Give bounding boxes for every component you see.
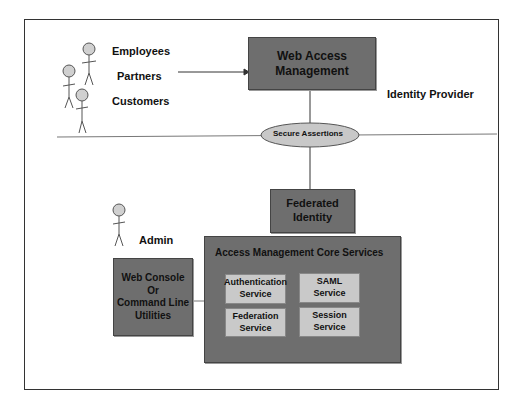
web-access-management-box: Web Access Management [248, 37, 376, 90]
web-console-label: Web Console Or Command Line Utilities [117, 272, 189, 322]
web-console-box: Web Console Or Command Line Utilities [113, 258, 193, 336]
identity-provider-label: Identity Provider [387, 88, 474, 100]
authentication-service-label: Authentication Service [224, 277, 287, 300]
employees-label: Employees [112, 45, 170, 57]
session-service-label: Session Service [312, 310, 347, 333]
employee-actor-icon [82, 43, 96, 85]
federated-identity-box: Federated Identity [270, 189, 355, 233]
partners-label: Partners [117, 70, 162, 82]
customer-actor-icon [76, 89, 88, 133]
core-services-title: Access Management Core Services [215, 247, 383, 260]
web-access-management-label: Web Access Management [275, 49, 348, 79]
federation-service-label: Federation Service [232, 311, 278, 334]
authentication-service-box: Authentication Service [225, 274, 286, 304]
session-service-box: Session Service [299, 307, 360, 337]
customers-label: Customers [112, 95, 169, 107]
admin-label: Admin [139, 234, 173, 246]
secure-assertions-label: Secure Assertions [273, 129, 343, 138]
partner-actor-icon [63, 65, 75, 108]
saml-service-label: SAML Service [313, 276, 345, 299]
arrow-icon [178, 69, 249, 75]
federated-identity-label: Federated Identity [286, 197, 339, 225]
admin-actor-icon [113, 204, 125, 246]
saml-service-box: SAML Service [299, 273, 360, 303]
federation-service-box: Federation Service [225, 308, 286, 337]
